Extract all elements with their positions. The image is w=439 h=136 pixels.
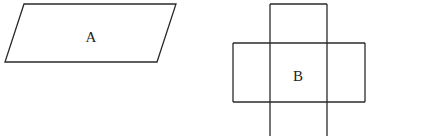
figure-a: A	[5, 4, 176, 62]
figure-a-label: A	[86, 29, 97, 45]
diagram-canvas: A B	[0, 0, 439, 136]
figure-b: B	[233, 4, 365, 136]
figure-b-label: B	[293, 68, 303, 84]
